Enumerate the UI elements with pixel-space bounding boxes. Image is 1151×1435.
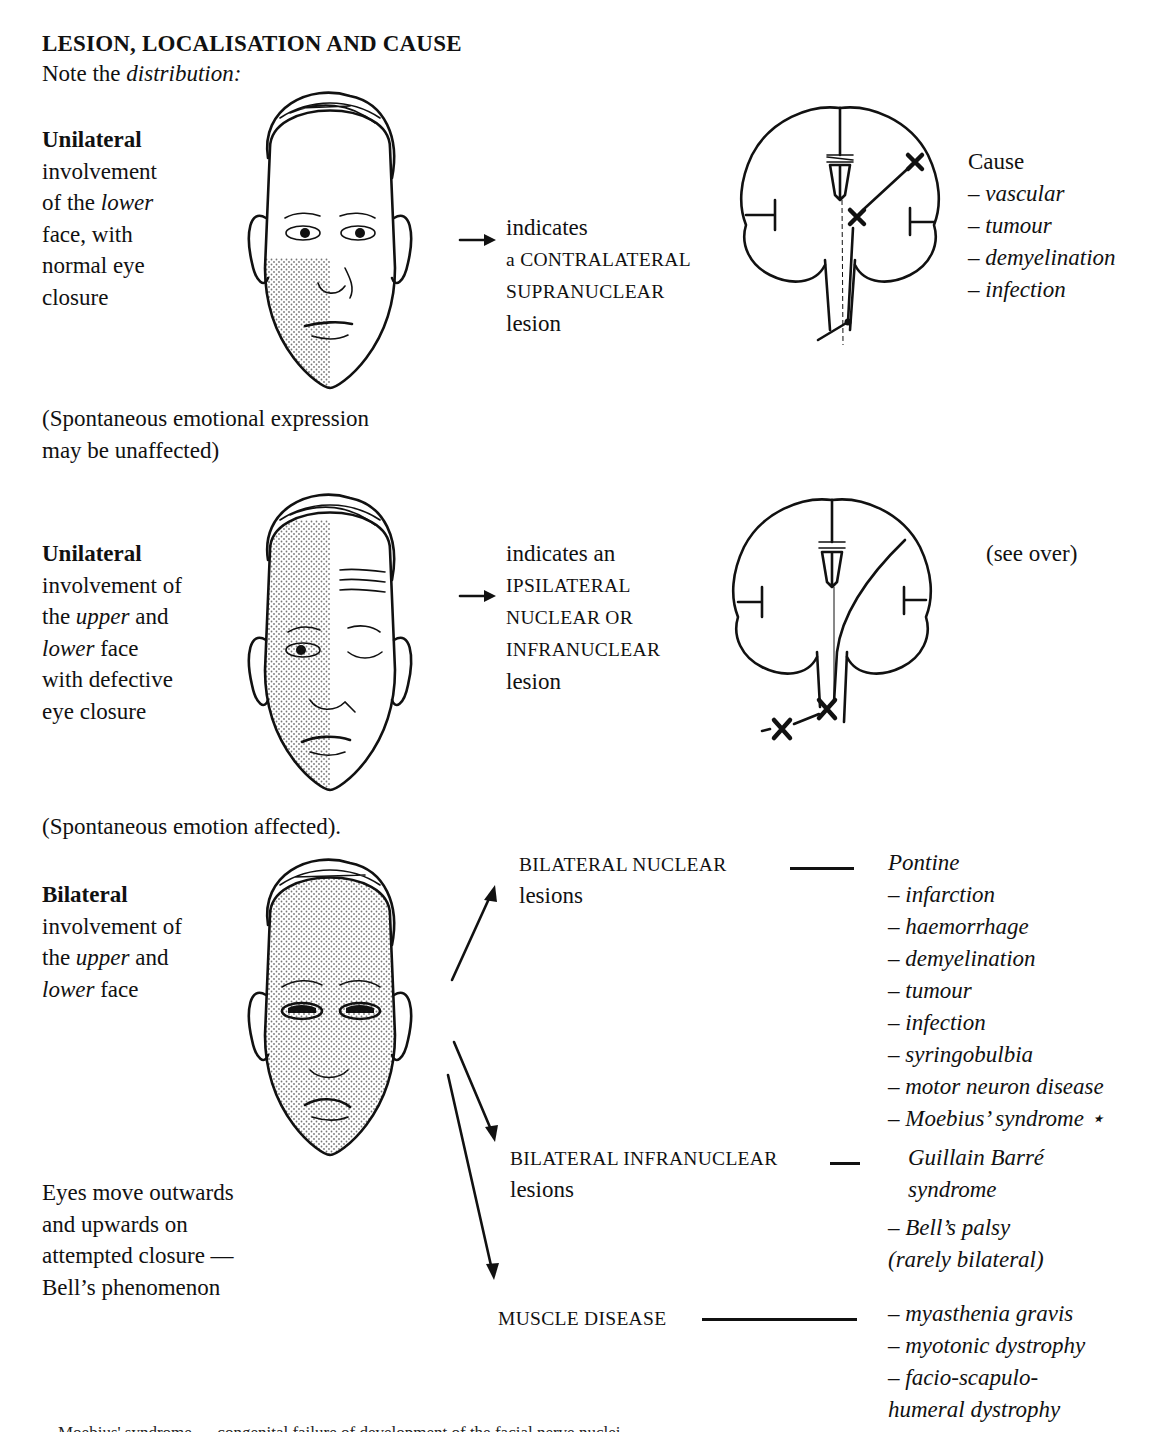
page-subtitle: Note the distribution:: [42, 58, 241, 90]
desc-emphasis: lower: [42, 636, 94, 661]
cause-item: – infection: [888, 1007, 1104, 1039]
section1-note: (Spontaneous emotional expression may be…: [42, 403, 369, 466]
connector-line: [702, 1318, 857, 1321]
branch-nuclear-causes: Pontine – infarction – haemorrhage – dem…: [888, 847, 1104, 1135]
desc-text: and: [130, 604, 169, 629]
brain-diagram-infranuclear: [722, 492, 962, 752]
desc-line: the upper and: [42, 942, 182, 974]
indicates-line: SUPRANUCLEAR: [506, 276, 691, 308]
branch-muscle-causes: – myasthenia gravis – myotonic dystrophy…: [888, 1298, 1085, 1426]
bells-phenomenon-note: Eyes move outwards and upwards on attemp…: [42, 1177, 234, 1303]
cause-item: humeral dystrophy: [888, 1394, 1085, 1426]
branch-nuclear-label: BILATERAL NUCLEAR lesions: [519, 850, 727, 912]
indicates-line: NUCLEAR OR: [506, 602, 660, 634]
note-line: Bell’s phenomenon: [42, 1272, 234, 1304]
face-illustration-bilateral: [200, 855, 460, 1165]
branch-muscle-label: MUSCLE DISEASE: [498, 1303, 666, 1335]
cause-item: – motor neuron disease: [888, 1071, 1104, 1103]
cause-heading: Pontine: [888, 847, 1104, 879]
desc-line: closure: [42, 282, 157, 314]
branch-infranuclear-label: BILATERAL INFRANUCLEAR lesions: [510, 1144, 778, 1206]
see-over-note: (see over): [986, 538, 1077, 570]
section1-indicates: indicates a CONTRALATERAL SUPRANUCLEAR l…: [506, 212, 691, 339]
branch-infranuclear-causes: Guillain Barré syndrome – Bell’s palsy (…: [888, 1142, 1044, 1276]
cause-item: – tumour: [968, 210, 1116, 242]
indicates-line: INFRANUCLEAR: [506, 634, 660, 666]
section2-indicates: indicates an IPSILATERAL NUCLEAR OR INFR…: [506, 538, 660, 697]
branch-label: lesions: [510, 1174, 778, 1206]
subtitle-emphasis: distribution:: [126, 61, 241, 86]
cause-item: – haemorrhage: [888, 911, 1104, 943]
desc-emphasis: upper: [76, 604, 130, 629]
section2-description: Unilateral involvement of the upper and …: [42, 538, 182, 727]
desc-line: normal eye: [42, 250, 157, 282]
indicates-line: a CONTRALATERAL: [506, 244, 691, 276]
note-line: and upwards on: [42, 1209, 234, 1241]
desc-line: lower face: [42, 633, 182, 665]
section1-heading: Unilateral: [42, 124, 157, 156]
desc-text: the: [42, 945, 76, 970]
branch-label: BILATERAL INFRANUCLEAR: [510, 1144, 778, 1174]
cause-item: – Bell’s palsy: [888, 1212, 1044, 1244]
cause-item: – vascular: [968, 178, 1116, 210]
cause-item: – myotonic dystrophy: [888, 1330, 1085, 1362]
indicates-line: indicates an: [506, 538, 660, 570]
branch-label: lesions: [519, 880, 727, 912]
desc-line: the upper and: [42, 601, 182, 633]
indicates-line: lesion: [506, 666, 660, 698]
arrow-to-nuclear: [452, 892, 492, 980]
desc-text: face: [94, 636, 138, 661]
section2-note: (Spontaneous emotion affected).: [42, 811, 341, 843]
cause-item: – facio-scapulo-: [888, 1362, 1085, 1394]
cause-item: – demyelination: [968, 242, 1116, 274]
footnote-cut-off: Moebius' syndrome — congenital failure o…: [58, 1423, 620, 1435]
desc-text: of the: [42, 190, 101, 215]
branch-label: BILATERAL NUCLEAR: [519, 850, 727, 880]
cause-item: – syringobulbia: [888, 1039, 1104, 1071]
desc-line: eye closure: [42, 696, 182, 728]
cause-item: – Moebius’ syndrome ⋆: [888, 1103, 1104, 1135]
desc-text: face: [94, 977, 138, 1002]
branch-arrows: [440, 870, 520, 1290]
arrow-right-icon: [458, 588, 498, 604]
desc-text: and: [130, 945, 169, 970]
section1-description: Unilateral involvement of the lower face…: [42, 124, 157, 313]
cause-item: – infection: [968, 274, 1116, 306]
cause-item: (rarely bilateral): [888, 1244, 1044, 1276]
note-line: attempted closure —: [42, 1240, 234, 1272]
face-illustration-full-unilateral: [200, 490, 460, 800]
desc-line: face, with: [42, 219, 157, 251]
subtitle-text: Note the: [42, 61, 126, 86]
desc-line: lower face: [42, 974, 182, 1006]
desc-line: of the lower: [42, 187, 157, 219]
indicates-line: lesion: [506, 308, 691, 340]
cause-item: – demyelination: [888, 943, 1104, 975]
cause-item: syndrome: [888, 1174, 1044, 1206]
cause-heading: Cause: [968, 146, 1116, 178]
indicates-line: IPSILATERAL: [506, 570, 660, 602]
indicates-line: indicates: [506, 212, 691, 244]
cause-item: – myasthenia gravis: [888, 1298, 1085, 1330]
desc-text: the: [42, 604, 76, 629]
section2-heading: Unilateral: [42, 538, 182, 570]
desc-line: involvement of: [42, 911, 182, 943]
desc-line: involvement of: [42, 570, 182, 602]
section1-causes: Cause – vascular – tumour – demyelinatio…: [968, 146, 1116, 306]
note-line: Eyes move outwards: [42, 1177, 234, 1209]
note-line: (Spontaneous emotional expression: [42, 403, 369, 435]
note-line: may be unaffected): [42, 435, 369, 467]
connector-line: [790, 867, 854, 870]
page-title: LESION, LOCALISATION AND CAUSE: [42, 31, 462, 57]
branch-label: MUSCLE DISEASE: [498, 1303, 666, 1335]
desc-line: involvement: [42, 156, 157, 188]
section3-description: Bilateral involvement of the upper and l…: [42, 879, 182, 1005]
desc-line: with defective: [42, 664, 182, 696]
section3-heading: Bilateral: [42, 879, 182, 911]
cause-item: – infarction: [888, 879, 1104, 911]
face-illustration-lower-weakness: [200, 88, 460, 398]
arrow-to-infranuclear: [454, 1042, 492, 1132]
desc-emphasis: upper: [76, 945, 130, 970]
cause-item: Guillain Barré: [888, 1142, 1044, 1174]
arrow-to-muscle: [448, 1075, 492, 1270]
connector-line: [830, 1162, 860, 1165]
